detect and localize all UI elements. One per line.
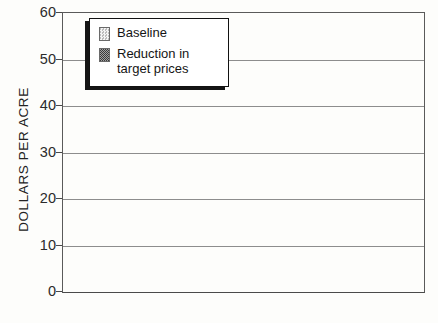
gridline [63, 106, 424, 107]
legend-item: Reduction in target prices [99, 47, 228, 76]
legend-item-label: Baseline [117, 26, 167, 41]
legend-item: Baseline [99, 26, 228, 41]
chart-figure: DOLLARS PER ACRE 6050403020100 Baseline … [0, 0, 438, 323]
y-axis-tick-label: 10 [20, 237, 56, 253]
y-axis-tick-label: 20 [20, 190, 56, 206]
y-axis-tick-label: 40 [20, 97, 56, 113]
y-axis-tick-label: 60 [20, 4, 56, 20]
gridline [63, 246, 424, 247]
dark-checker-swatch [99, 48, 110, 62]
y-axis-tick-label: 50 [20, 51, 56, 67]
gridline [63, 153, 424, 154]
legend-box: Baseline Reduction in target prices [89, 18, 229, 87]
y-axis-title: DOLLARS PER ACRE [16, 60, 31, 260]
y-axis-tick-label: 30 [20, 144, 56, 160]
legend-item-label: Reduction in target prices [117, 47, 189, 76]
y-axis-tick-label: 0 [20, 283, 56, 299]
light-checker-swatch [99, 27, 110, 41]
gridline [63, 199, 424, 200]
